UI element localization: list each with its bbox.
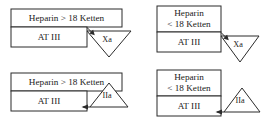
at3-label-top-right: AT III (178, 37, 201, 47)
panel-bottom-right: Heparin < 18 Ketten AT III IIa (157, 70, 260, 116)
factor-label-bottom-left: IIa (102, 91, 111, 100)
panel-top-left: Heparin > 18 Ketten AT III Xa (11, 9, 131, 57)
heparin-label-bottom-left: Heparin > 18 Ketten (29, 77, 105, 87)
panel-top-right: Heparin < 18 Ketten AT III Xa (157, 6, 259, 62)
factor-label-top-right: Xa (233, 40, 243, 49)
heparin-at3-diagram: Heparin > 18 Ketten AT III Xa Heparin < … (0, 0, 263, 127)
factor-label-top-left: Xa (102, 35, 112, 44)
heparin-label-line1-bottom-right: Heparin (174, 72, 204, 82)
heparin-label-line2-bottom-right: < 18 Ketten (167, 83, 211, 93)
heparin-label-line2-top-right: < 18 Ketten (167, 19, 211, 29)
at3-label-top-left: AT III (38, 32, 61, 42)
panel-bottom-left: Heparin > 18 Ketten AT III IIa (11, 73, 128, 111)
at3-label-bottom-right: AT III (178, 101, 201, 111)
heparin-label-top-left: Heparin > 18 Ketten (29, 13, 105, 23)
at3-label-bottom-left: AT III (38, 96, 61, 106)
factor-label-bottom-right: IIa (235, 96, 244, 105)
heparin-label-line1-top-right: Heparin (174, 8, 204, 18)
